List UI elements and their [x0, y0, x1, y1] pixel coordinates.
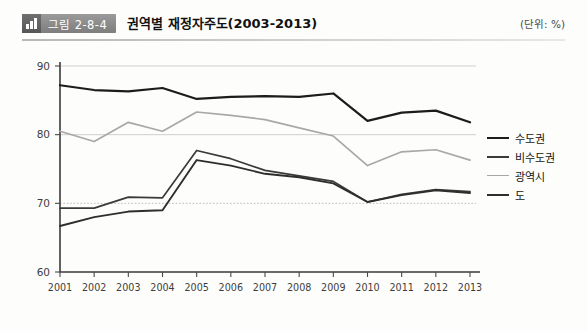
- series-line-비수도권: [60, 150, 470, 208]
- x-tick-label: 2008: [287, 282, 311, 293]
- y-tick-label: 60: [37, 266, 50, 278]
- x-tick-label: 2001: [48, 282, 72, 293]
- bar-chart-icon: [22, 14, 41, 33]
- figure-number-label: 그림 2-8-4: [48, 16, 107, 32]
- y-axis-ticks: 60708090: [37, 60, 60, 278]
- axis-lines: [60, 62, 480, 272]
- x-tick-label: 2011: [389, 282, 413, 293]
- legend-color-swatch: [487, 194, 509, 196]
- legend-color-swatch: [487, 156, 509, 158]
- x-axis-ticks: 2001200220032004200520062007200820092010…: [48, 272, 482, 293]
- x-tick-label: 2004: [150, 282, 174, 293]
- chart-legend: 수도권비수도권광역시도: [487, 128, 579, 204]
- x-tick-label: 2002: [82, 282, 106, 293]
- legend-item-label: 광역시: [515, 168, 545, 184]
- legend-item-label: 수도권: [515, 130, 545, 146]
- figure-header: 그림 2-8-4 권역별 재정자주도(2003-2013) (단위: %): [0, 14, 587, 44]
- grid-lines: [60, 66, 476, 203]
- axes: [60, 62, 480, 272]
- legend-color-swatch: [487, 175, 509, 176]
- x-tick-label: 2009: [321, 282, 345, 293]
- legend-item-label: 도: [515, 187, 525, 203]
- y-tick-label: 80: [37, 128, 50, 140]
- y-tick-label: 90: [37, 60, 50, 72]
- x-tick-label: 2012: [424, 282, 448, 293]
- series-line-광역시: [60, 112, 470, 166]
- x-tick-label: 2010: [355, 282, 379, 293]
- x-tick-label: 2013: [458, 282, 482, 293]
- unit-label: (단위: %): [520, 15, 565, 33]
- legend-color-swatch: [487, 137, 509, 139]
- legend-item-label: 비수도권: [515, 149, 555, 165]
- series-line-수도권: [60, 85, 470, 122]
- figure-title: 권역별 재정자주도(2003-2013): [127, 14, 317, 33]
- legend-item[interactable]: 비수도권: [487, 147, 579, 166]
- legend-item[interactable]: 광역시: [487, 166, 579, 185]
- x-tick-label: 2007: [253, 282, 277, 293]
- data-series: [60, 85, 470, 226]
- x-tick-label: 2005: [184, 282, 208, 293]
- figure-page: 그림 2-8-4 권역별 재정자주도(2003-2013) (단위: %) 60…: [0, 0, 587, 331]
- x-tick-label: 2006: [219, 282, 243, 293]
- legend-item[interactable]: 도: [487, 185, 579, 204]
- legend-item[interactable]: 수도권: [487, 128, 579, 147]
- x-tick-label: 2003: [116, 282, 140, 293]
- figure-number-badge: 그림 2-8-4: [22, 14, 116, 33]
- y-tick-label: 70: [37, 197, 50, 209]
- header-divider: [22, 39, 565, 41]
